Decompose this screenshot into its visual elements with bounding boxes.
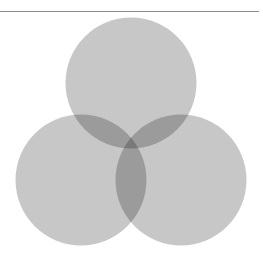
venn-circle-bottom-right [116, 115, 247, 246]
figure-canvas [0, 0, 263, 262]
venn-diagram [0, 0, 263, 262]
